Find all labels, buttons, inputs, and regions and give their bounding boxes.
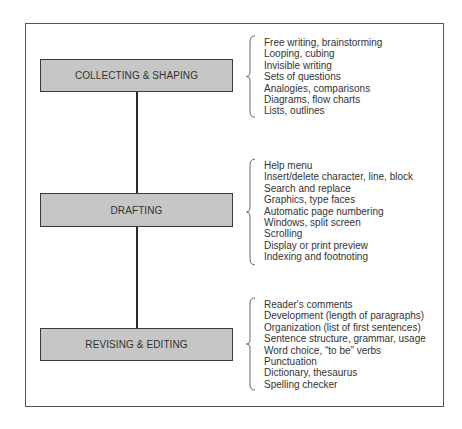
list-item: Indexing and footnoting — [264, 251, 413, 262]
stage-label: DRAFTING — [111, 205, 163, 216]
list-item: Looping, cubing — [264, 48, 382, 59]
list-item: Free writing, brainstorming — [264, 37, 382, 48]
left-brace-icon — [246, 35, 256, 118]
left-brace-icon — [246, 297, 256, 391]
list-item: Search and replace — [264, 183, 413, 194]
list-item: Help menu — [264, 160, 413, 171]
stage-item-list: Reader's comments Development (length of… — [264, 299, 426, 390]
list-item: Dictionary, thesaurus — [264, 367, 426, 378]
list-item: Invisible writing — [264, 60, 382, 71]
connector-line — [136, 227, 138, 328]
list-item: Sets of questions — [264, 71, 382, 82]
list-item: Word choice, “to be” verbs — [264, 345, 426, 356]
list-item: Reader's comments — [264, 299, 426, 310]
list-item: Sentence structure, grammar, usage — [264, 333, 426, 344]
list-item: Display or print preview — [264, 240, 413, 251]
list-item: Development (length of paragraphs) — [264, 310, 426, 321]
stage-box-drafting: DRAFTING — [40, 193, 233, 227]
list-item: Diagrams, flow charts — [264, 94, 382, 105]
stage-box-revising-editing: REVISING & EDITING — [40, 328, 233, 361]
stage-label: COLLECTING & SHAPING — [75, 70, 198, 81]
list-item: Lists, outlines — [264, 105, 382, 116]
list-item: Punctuation — [264, 356, 426, 367]
list-item: Graphics, type faces — [264, 194, 413, 205]
list-item: Insert/delete character, line, block — [264, 171, 413, 182]
stage-item-list: Free writing, brainstorming Looping, cub… — [264, 37, 382, 117]
left-brace-icon — [246, 158, 256, 266]
list-item: Windows, split screen — [264, 217, 413, 228]
list-item: Spelling checker — [264, 379, 426, 390]
list-item: Organization (list of first sentences) — [264, 322, 426, 333]
stage-item-list: Help menu Insert/delete character, line,… — [264, 160, 413, 263]
stage-label: REVISING & EDITING — [85, 339, 187, 350]
list-item: Scrolling — [264, 228, 413, 239]
stage-box-collecting-shaping: COLLECTING & SHAPING — [40, 59, 233, 92]
list-item: Analogies, comparisons — [264, 83, 382, 94]
connector-line — [136, 92, 138, 193]
list-item: Automatic page numbering — [264, 206, 413, 217]
